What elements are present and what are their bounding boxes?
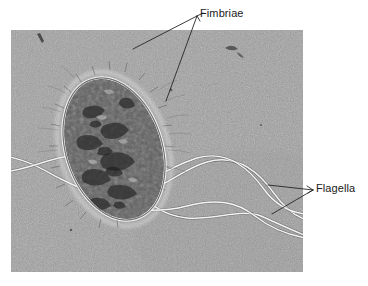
- electron-micrograph-figure: Fimbriae Flagella: [0, 0, 368, 286]
- label-fimbriae: Fimbriae: [200, 8, 244, 19]
- micrograph-canvas: [11, 30, 303, 272]
- label-flagella: Flagella: [316, 183, 355, 194]
- micrograph-image: [11, 30, 303, 272]
- arrowhead-flagella: [307, 186, 313, 193]
